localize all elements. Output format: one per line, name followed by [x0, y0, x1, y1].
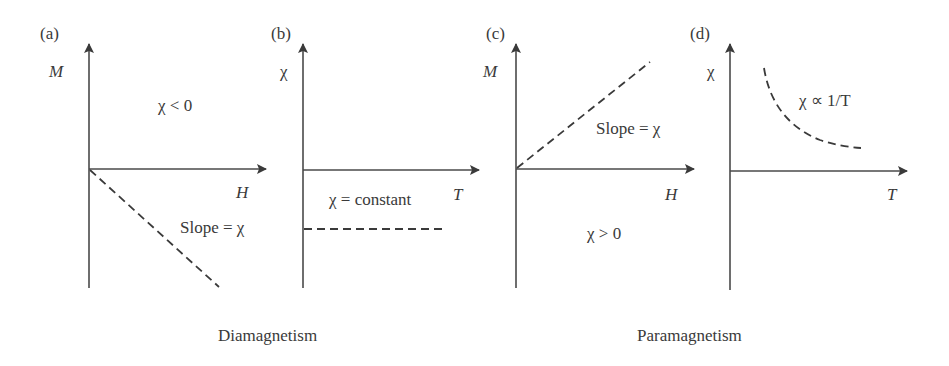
- panel-d-tag: (d): [690, 25, 710, 42]
- diagram-canvas: [0, 0, 949, 366]
- panel-a-x-axis-label: H: [236, 184, 248, 201]
- panel-b-axes: [303, 44, 479, 288]
- panel-d-axes: [730, 44, 907, 290]
- caption-diamagnetism: Diamagnetism: [218, 327, 317, 344]
- panel-c-dashed-line: [517, 62, 650, 168]
- panel-c-y-axis-label: M: [483, 63, 497, 80]
- panel-a-tag: (a): [40, 25, 59, 42]
- panel-d-annotation-proportional: χ ∝ 1/T: [799, 92, 851, 109]
- panel-b-annotation-constant: χ = constant: [329, 191, 411, 208]
- panel-c-x-axis-label: H: [665, 186, 677, 203]
- panel-a-annotation-slope: Slope = χ: [180, 219, 244, 236]
- panel-b-y-axis-label: χ: [280, 63, 288, 80]
- panel-c-annotation-sign: χ > 0: [587, 225, 621, 242]
- panel-a-annotation-sign: χ < 0: [158, 97, 192, 114]
- panel-b-x-axis-label: T: [453, 186, 462, 203]
- caption-paramagnetism: Paramagnetism: [637, 327, 742, 344]
- panel-a-axes: [89, 44, 266, 288]
- panel-c-annotation-slope: Slope = χ: [596, 120, 660, 137]
- panel-d-x-axis-label: T: [887, 186, 896, 203]
- panel-d-y-axis-label: χ: [707, 63, 715, 80]
- panel-a-y-axis-label: M: [49, 63, 63, 80]
- panel-c-tag: (c): [486, 25, 505, 42]
- panel-b-tag: (b): [271, 25, 291, 42]
- panel-c-axes: [516, 44, 694, 288]
